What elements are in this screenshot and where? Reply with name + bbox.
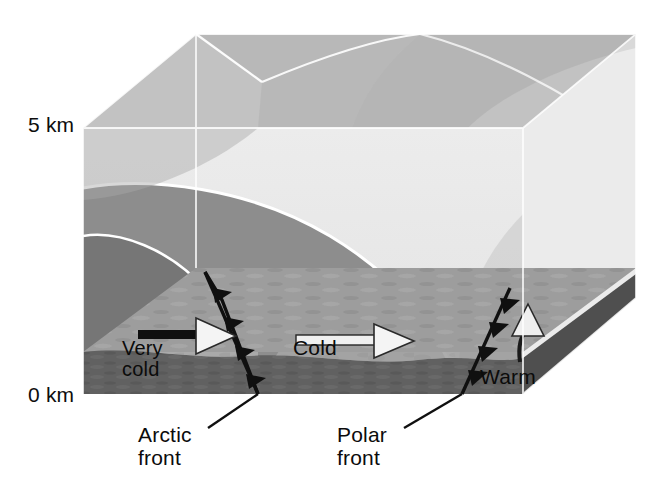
scene-illustration <box>0 0 656 502</box>
air-mass-label-cold: Cold <box>293 337 337 358</box>
front-label-arctic: Arctic front <box>138 423 192 469</box>
axis-label-5km: 5 km <box>28 113 74 137</box>
air-mass-label-very-cold: Very cold <box>122 338 163 380</box>
axis-label-0km: 0 km <box>28 383 74 407</box>
fronts-block-diagram: 5 km 0 km Very cold Cold Warm Arctic fro… <box>0 0 656 502</box>
air-mass-label-warm: Warm <box>480 366 536 387</box>
front-label-polar: Polar front <box>337 423 387 469</box>
